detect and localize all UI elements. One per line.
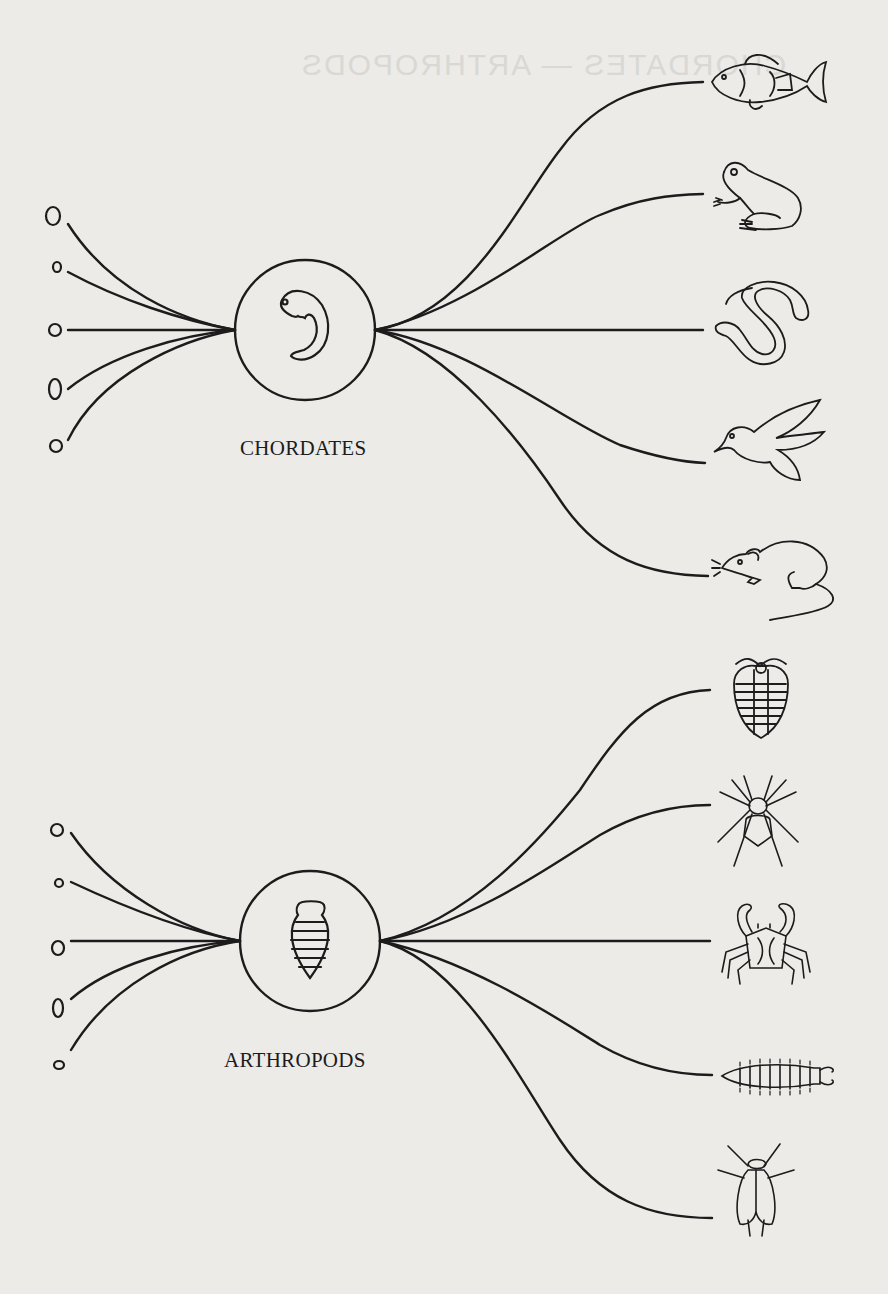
millipede-icon [722,1059,833,1095]
arthropods-ancestor-nodes [51,824,64,1069]
segmented-larva-icon [291,901,329,978]
fish-icon [712,55,826,109]
arthropods-ancestor-lines [71,833,240,1050]
chordates-group [46,82,708,576]
rat-icon [712,541,833,620]
snake-icon [716,282,809,364]
arthropods-group [51,690,712,1218]
chordates-node [235,260,375,400]
spider-icon [718,776,798,866]
frog-icon [714,163,801,230]
chordates-label: CHORDATES [240,436,366,461]
phylogeny-diagram [0,0,888,1294]
arthropods-label: ARTHROPODS [224,1048,366,1073]
trilobite-icon [734,659,788,738]
arthropods-descendant-lines [380,690,712,1218]
crab-icon [722,904,810,984]
chordates-descendant-lines [375,82,708,576]
bird-icon [714,400,824,480]
chordates-ancestor-nodes [46,207,62,452]
fly-icon [718,1144,794,1236]
chordates-ancestor-lines [68,224,235,440]
embryo-icon [281,291,328,360]
